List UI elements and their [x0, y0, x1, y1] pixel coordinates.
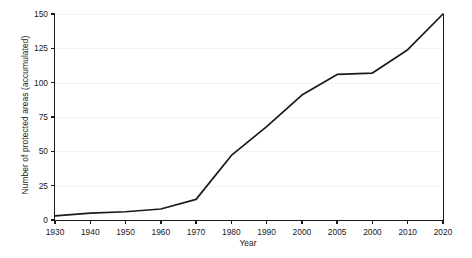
- x-axis-tick-label: 1960: [151, 227, 170, 237]
- y-axis-tick: [51, 185, 55, 186]
- x-axis-tick: [231, 220, 232, 224]
- x-axis-tick-label: 1980: [222, 227, 241, 237]
- x-axis-tick: [160, 220, 161, 224]
- y-axis-tick: [51, 116, 55, 117]
- x-axis-tick-label: 1990: [257, 227, 276, 237]
- x-axis-tick: [301, 220, 302, 224]
- y-axis-tick: [51, 151, 55, 152]
- x-axis-tick: [336, 220, 337, 224]
- y-axis-tick-label: 75: [39, 112, 48, 122]
- x-axis-tick-label: 1950: [116, 227, 135, 237]
- chart-figure: Number of protected areas (accumulated) …: [0, 0, 472, 258]
- y-axis-tick-label: 100: [34, 78, 48, 88]
- x-axis-tick: [90, 220, 91, 224]
- series-polyline: [55, 14, 443, 216]
- y-axis-tick-label: 150: [34, 9, 48, 19]
- x-axis-tick-label: 2000: [363, 227, 382, 237]
- line-series: [55, 14, 443, 220]
- plot-area: 0255075100125150193019401950196019701980…: [54, 14, 444, 221]
- x-axis-tick-label: 2000: [293, 227, 312, 237]
- x-axis-tick: [372, 220, 373, 224]
- y-axis-tick: [51, 82, 55, 83]
- x-axis-tick: [195, 220, 196, 224]
- y-axis-tick-label: 50: [39, 146, 48, 156]
- x-axis-tick-label: 2020: [434, 227, 453, 237]
- y-axis-title: Number of protected areas (accumulated): [20, 10, 30, 220]
- x-axis-tick: [442, 220, 443, 224]
- x-axis-tick: [125, 220, 126, 224]
- x-axis-tick: [54, 220, 55, 224]
- x-axis-tick-label: 1970: [187, 227, 206, 237]
- x-axis-tick-label: 1930: [46, 227, 65, 237]
- x-axis-title: Year: [54, 238, 442, 248]
- y-axis-tick-label: 125: [34, 43, 48, 53]
- y-axis-tick-label: 25: [39, 181, 48, 191]
- x-axis-tick-label: 2010: [398, 227, 417, 237]
- y-axis-tick: [51, 48, 55, 49]
- y-axis-tick: [51, 13, 55, 14]
- x-axis-tick-label: 1940: [81, 227, 100, 237]
- x-axis-tick: [407, 220, 408, 224]
- x-axis-tick-label: 2005: [328, 227, 347, 237]
- y-axis-tick-label: 0: [43, 215, 48, 225]
- x-axis-tick: [266, 220, 267, 224]
